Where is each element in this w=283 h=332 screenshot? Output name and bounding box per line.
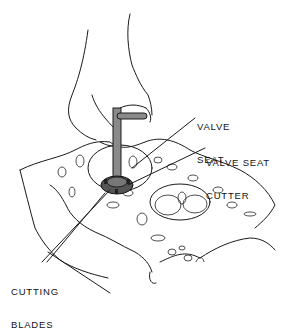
label-valve-seat-cutter: VALVE SEAT CUTTER <box>206 135 270 223</box>
label-cutting-blades-line-2: BLADES <box>11 319 59 330</box>
label-valve-seat-cutter-line-1: VALVE SEAT <box>206 157 270 168</box>
label-cutting-blades: CUTTING BLADES <box>11 264 59 332</box>
hand-drawing <box>69 14 152 146</box>
label-valve-seat-line-1: VALVE <box>197 121 230 132</box>
label-valve-seat-cutter-line-2: CUTTER <box>206 190 270 201</box>
label-cutting-blades-line-1: CUTTING <box>11 286 59 297</box>
